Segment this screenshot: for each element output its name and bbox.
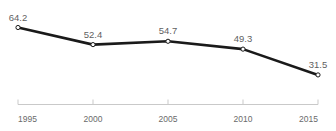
x-axis-tick-label: 2005 (159, 114, 178, 124)
data-point-label: 52.4 (84, 29, 103, 40)
axis-group (18, 100, 318, 105)
x-axis-tick-marks (18, 100, 318, 105)
x-axis-tick-label: 1995 (18, 114, 37, 124)
data-point-marker[interactable] (166, 39, 170, 43)
chart-plot-area (0, 0, 336, 131)
x-axis-tick-label: 2015 (299, 114, 318, 124)
data-point-marker[interactable] (316, 73, 320, 77)
data-point-label: 54.7 (159, 25, 178, 36)
data-point-label: 64.2 (9, 12, 28, 23)
data-point-marker[interactable] (91, 43, 95, 47)
x-axis-tick-label: 2000 (84, 114, 103, 124)
x-axis-tick-label: 2010 (234, 114, 253, 124)
data-point-label: 49.3 (234, 33, 253, 44)
data-point-marker[interactable] (16, 25, 20, 29)
data-point-marker[interactable] (241, 47, 245, 51)
data-point-label: 31.5 (309, 59, 328, 70)
line-chart: 64.252.454.749.331.5 1995200020052010201… (0, 0, 336, 131)
